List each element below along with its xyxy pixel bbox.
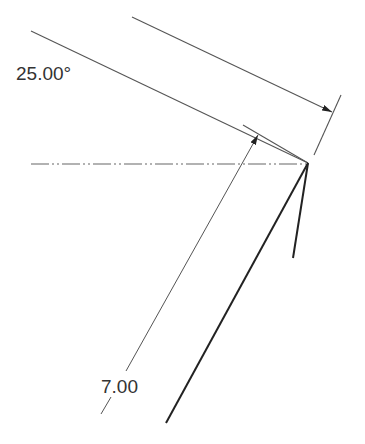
angle-reference-line bbox=[31, 31, 308, 163]
length-dimension-label: 7.00 bbox=[101, 376, 138, 397]
length-leader-line-lower bbox=[101, 397, 111, 414]
angle-dimension-label: 25.00° bbox=[16, 63, 71, 84]
drawing-canvas: 25.00° 7.00 bbox=[0, 0, 365, 444]
object-line-long bbox=[166, 163, 308, 423]
extension-line bbox=[314, 95, 341, 155]
top-dimension-line bbox=[132, 17, 332, 112]
length-leader-line-upper bbox=[126, 135, 258, 371]
